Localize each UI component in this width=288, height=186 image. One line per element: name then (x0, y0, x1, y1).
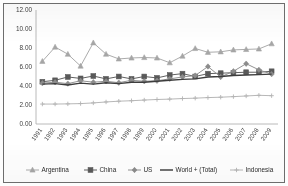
x-axis-tick-label: 1995 (81, 126, 95, 142)
legend-label: World + (Total) (176, 166, 218, 174)
legend-item-world-total[interactable]: World + (Total) (160, 166, 217, 174)
chart-legend: ArgentinaChinaUSWorld + (Total)Indonesia (26, 166, 274, 174)
chart-canvas: 0.002.004.006.008.0010.0012.001991199219… (4, 4, 284, 182)
x-axis-tick-label: 2004 (195, 126, 209, 142)
legend-label: US (144, 166, 153, 173)
data-point-marker (116, 74, 121, 79)
data-point-marker (218, 95, 222, 99)
data-point-marker (168, 97, 172, 101)
data-point-marker (244, 94, 248, 98)
line-chart: 0.002.004.006.008.0010.0012.001991199219… (4, 4, 284, 182)
y-axis-tick-label: 2.00 (20, 101, 33, 108)
x-axis-tick-label: 2006 (221, 126, 235, 142)
x-axis-tick-label: 2007 (233, 126, 247, 142)
x-axis-tick-label: 1996 (93, 126, 107, 142)
x-axis-tick-label: 1993 (55, 126, 69, 142)
x-axis-tick-label: 2008 (246, 126, 260, 142)
data-point-marker (193, 46, 198, 51)
x-axis-tick-label: 1997 (106, 126, 120, 142)
data-point-marker (91, 40, 96, 45)
data-point-marker (132, 167, 137, 172)
x-axis-tick-label: 2009 (259, 126, 273, 142)
x-axis-tick-label: 2000 (144, 126, 158, 142)
data-point-marker (180, 96, 184, 100)
data-point-marker (269, 93, 273, 97)
data-point-marker (53, 44, 58, 49)
data-point-marker (269, 41, 274, 46)
data-point-marker (244, 61, 249, 66)
data-point-marker (65, 51, 70, 56)
series-us (40, 61, 274, 86)
legend-label: Indonesia (246, 166, 274, 173)
data-point-marker (78, 101, 82, 105)
data-point-marker (129, 99, 133, 103)
data-point-marker (117, 99, 121, 103)
data-point-marker (104, 100, 108, 104)
y-axis-tick-label: 4.00 (20, 82, 33, 89)
series-indonesia (40, 93, 274, 106)
legend-item-china[interactable]: China (84, 166, 117, 173)
series-line (42, 43, 271, 66)
data-point-marker (91, 74, 96, 79)
data-point-marker (155, 97, 159, 101)
x-axis-tick-label: 2001 (157, 126, 171, 142)
data-point-marker (91, 101, 95, 105)
data-point-marker (231, 94, 235, 98)
data-point-marker (206, 71, 211, 76)
legend-item-us[interactable]: US (128, 166, 152, 173)
data-point-marker (65, 75, 70, 80)
data-point-marker (193, 96, 197, 100)
data-point-marker (53, 102, 57, 106)
x-axis-tick-label: 1998 (119, 126, 133, 142)
legend-item-argentina[interactable]: Argentina (26, 166, 69, 174)
data-point-marker (244, 70, 249, 75)
data-point-marker (40, 102, 44, 106)
data-point-marker (206, 95, 210, 99)
data-point-marker (180, 53, 185, 58)
x-axis-tick-label: 2005 (208, 126, 222, 142)
chart-border: 0.002.004.006.008.0010.0012.001991199219… (3, 3, 285, 183)
data-point-marker (88, 168, 93, 173)
data-point-marker (116, 80, 121, 85)
legend-item-indonesia[interactable]: Indonesia (230, 166, 274, 173)
y-axis-tick-label: 10.00 (16, 25, 32, 32)
x-axis-tick-label: 1992 (42, 126, 56, 142)
x-axis-tick-label: 1999 (131, 126, 145, 142)
series-argentina (40, 40, 274, 68)
data-point-marker (66, 102, 70, 106)
legend-label: China (100, 166, 117, 173)
data-point-marker (234, 168, 238, 172)
data-point-marker (142, 98, 146, 102)
x-axis-tick-label: 1991 (30, 126, 44, 142)
chart-figure: 0.002.004.006.008.0010.0012.001991199219… (0, 0, 288, 186)
data-point-marker (142, 79, 147, 84)
data-point-marker (257, 93, 261, 97)
x-axis-tick-label: 2002 (170, 126, 184, 142)
y-axis-tick-label: 6.00 (20, 63, 33, 70)
y-axis-tick-label: 8.00 (20, 44, 33, 51)
y-axis-tick-label: 0.00 (20, 120, 33, 127)
legend-label: Argentina (42, 166, 70, 174)
x-axis-tick-label: 1994 (68, 126, 82, 142)
y-axis-tick-label: 12.00 (16, 6, 32, 13)
x-axis-tick-label: 2003 (182, 126, 196, 142)
